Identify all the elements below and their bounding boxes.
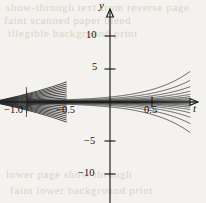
x-tick-label-neg05: −0.5 <box>56 104 75 115</box>
y-tick-label-5: 5 <box>92 61 97 72</box>
plot-area <box>0 0 206 203</box>
x-axis-label: t <box>193 102 196 114</box>
y-axis-label: y <box>99 0 104 11</box>
x-tick-label-neg1: −1.0 <box>4 104 23 115</box>
y-tick-label-neg10: −10 <box>78 167 94 178</box>
figure-canvas: show-through text from reverse page fain… <box>0 0 206 203</box>
y-tick-label-neg5: −5 <box>84 135 95 146</box>
solution-curve-bundle <box>0 82 66 100</box>
y-tick-label-10: 10 <box>86 29 97 40</box>
x-tick-label-05: 0.5 <box>144 104 157 115</box>
